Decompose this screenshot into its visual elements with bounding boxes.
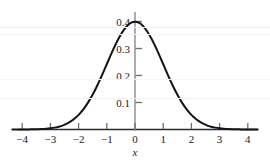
x-tick-label--2: −2 [73, 133, 85, 145]
x-axis-title: x [132, 146, 138, 158]
normal-distribution-chart: −4−3−2−101234 0.10.20.30.4 x [0, 0, 270, 164]
x-tick-label-2: 2 [189, 133, 195, 145]
x-tick-label--3: −3 [45, 133, 57, 145]
y-tick-label-0.3: 0.3 [116, 43, 130, 55]
x-tick-label--1: −1 [101, 133, 113, 145]
x-tick-label-4: 4 [245, 133, 251, 145]
y-axis-ticks [136, 22, 143, 103]
x-tick-label-1: 1 [160, 133, 166, 145]
x-tick-label--4: −4 [16, 133, 28, 145]
x-axis-tick-labels: −4−3−2−101234 [16, 133, 251, 145]
x-tick-label-3: 3 [217, 133, 223, 145]
x-tick-label-0: 0 [132, 133, 138, 145]
y-tick-label-0.1: 0.1 [116, 97, 130, 109]
chart-figure: −4−3−2−101234 0.10.20.30.4 x [0, 0, 270, 164]
y-tick-label-0.2: 0.2 [116, 70, 130, 82]
